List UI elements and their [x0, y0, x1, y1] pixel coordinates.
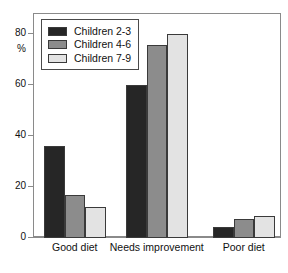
- legend-label-children-7-9: Children 7-9: [74, 53, 131, 64]
- legend-label-children-4-6: Children 4-6: [74, 39, 131, 50]
- bar: [147, 45, 168, 238]
- y-axis-tick-label: 40: [15, 130, 26, 140]
- bar: [126, 85, 147, 238]
- legend-swatch-children-2-3: [48, 27, 67, 36]
- y-axis-unit-label: %: [17, 44, 26, 54]
- y-axis-tick-label: 20: [15, 181, 26, 191]
- bar: [85, 207, 106, 238]
- bar-group: [213, 13, 275, 238]
- bar: [254, 216, 275, 238]
- bar-chart: % 020406080 Good dietNeeds improvementPo…: [0, 0, 288, 273]
- legend-label-children-2-3: Children 2-3: [74, 26, 131, 37]
- bar: [44, 146, 65, 238]
- legend-swatch-children-4-6: [48, 40, 67, 49]
- bar: [65, 195, 86, 238]
- chart-legend: Children 2-3 Children 4-6 Children 7-9: [41, 19, 139, 70]
- y-axis-tick-label: 60: [15, 79, 26, 89]
- legend-item: Children 4-6: [48, 38, 131, 51]
- legend-item: Children 2-3: [48, 25, 131, 38]
- y-axis-tick-label: 80: [15, 28, 26, 38]
- bar: [167, 34, 188, 238]
- legend-swatch-children-7-9: [48, 54, 67, 63]
- bar: [234, 219, 255, 238]
- legend-item: Children 7-9: [48, 52, 131, 65]
- bar: [213, 227, 234, 238]
- x-axis-category-label: Poor diet: [184, 241, 288, 253]
